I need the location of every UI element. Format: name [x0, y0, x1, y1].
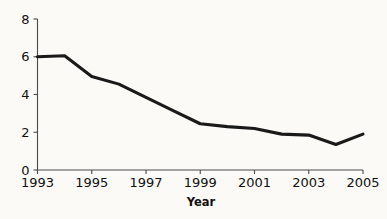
y-tick-label: 2 [21, 125, 29, 140]
x-tick-label: 1993 [21, 175, 54, 190]
y-tick-label: 8 [21, 12, 29, 27]
axis-spine [38, 19, 364, 170]
x-tick-label: 2005 [346, 175, 379, 190]
x-tick-label: 1999 [184, 175, 217, 190]
chart-container: 02468 1993199519971999200120032005 Year [0, 0, 387, 219]
x-tick-label: 1995 [75, 175, 108, 190]
y-tick-label: 6 [21, 49, 29, 64]
x-tick-label: 1997 [129, 175, 162, 190]
data-series-line [38, 56, 364, 145]
x-tick-label: 2001 [238, 175, 271, 190]
y-tick-label: 4 [21, 87, 29, 102]
line-chart: 02468 1993199519971999200120032005 Year [0, 0, 387, 219]
x-axis-tick-labels: 1993199519971999200120032005 [21, 175, 380, 190]
y-axis-tick-labels: 02468 [21, 12, 29, 178]
axis-tick-marks [34, 19, 364, 174]
x-tick-label: 2003 [292, 175, 325, 190]
x-axis-title: Year [186, 195, 216, 209]
